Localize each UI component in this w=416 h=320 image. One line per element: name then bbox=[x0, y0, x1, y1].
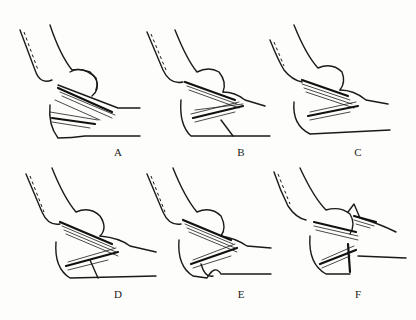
panel-label-c: C bbox=[348, 146, 368, 158]
panel-label-f: F bbox=[348, 288, 368, 300]
panel-b: B bbox=[135, 0, 275, 160]
panel-a: A bbox=[0, 0, 140, 160]
panel-label-e: E bbox=[231, 288, 251, 300]
anatomy-figure: A B C bbox=[0, 0, 416, 320]
panel-d: D bbox=[0, 160, 140, 320]
elbow-drawing-b bbox=[135, 0, 275, 150]
panel-label-b: B bbox=[231, 146, 251, 158]
panel-label-a: A bbox=[108, 146, 128, 158]
panel-e: E bbox=[135, 160, 275, 320]
elbow-drawing-e bbox=[135, 160, 275, 310]
panel-f: F bbox=[270, 160, 410, 320]
elbow-drawing-c bbox=[270, 0, 410, 150]
elbow-drawing-f bbox=[270, 160, 410, 310]
elbow-drawing-a bbox=[0, 0, 140, 150]
panel-c: C bbox=[270, 0, 410, 160]
panel-label-d: D bbox=[108, 288, 128, 300]
